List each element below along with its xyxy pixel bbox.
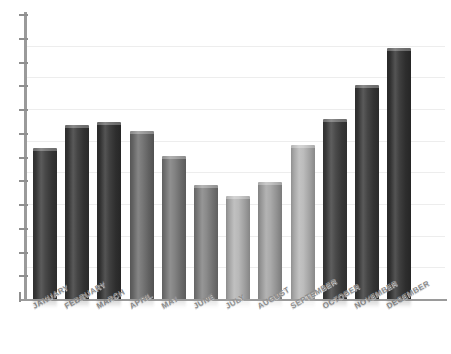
y-axis-tick	[19, 275, 28, 277]
y-axis-tick	[19, 85, 28, 87]
bar-top-highlight	[130, 131, 154, 134]
bar-reflection	[194, 300, 218, 308]
x-axis-origin-tick	[19, 292, 21, 302]
bar-top-highlight	[65, 125, 89, 128]
bar-top-highlight	[97, 122, 121, 125]
bar-top-highlight	[226, 196, 250, 199]
bar-reflection	[97, 300, 121, 308]
bar[interactable]	[65, 125, 89, 299]
gridline	[26, 77, 445, 78]
bar[interactable]	[226, 196, 250, 299]
bar-top-highlight	[387, 48, 411, 51]
bar-top-highlight	[323, 119, 347, 122]
y-axis-tick	[19, 180, 28, 182]
bar-top-highlight	[258, 182, 282, 185]
bar-reflection	[162, 300, 186, 308]
bar[interactable]	[323, 119, 347, 299]
bar[interactable]	[355, 85, 379, 299]
bar-reflection	[387, 300, 411, 308]
y-axis-tick	[19, 38, 28, 40]
bar[interactable]	[291, 145, 315, 299]
bar-reflection	[291, 300, 315, 308]
y-axis-tick	[19, 228, 28, 230]
bar-reflection	[355, 300, 379, 308]
bar-top-highlight	[162, 156, 186, 159]
plot-area	[26, 14, 445, 299]
bar[interactable]	[162, 156, 186, 299]
bar[interactable]	[258, 182, 282, 299]
y-axis-tick	[19, 62, 28, 64]
bar-top-highlight	[355, 85, 379, 88]
y-axis-tick	[19, 252, 28, 254]
bar[interactable]	[130, 131, 154, 299]
bar-reflection	[323, 300, 347, 308]
bar-chart: JANUARYJANUARYFEBRUARYFEBRUARYMARCHMARCH…	[0, 0, 451, 354]
gridline	[26, 46, 445, 47]
bar-reflection	[33, 300, 57, 308]
y-axis-tick	[19, 14, 28, 16]
y-axis-tick	[19, 133, 28, 135]
bar-reflection	[65, 300, 89, 308]
bar-top-highlight	[291, 145, 315, 148]
bar-top-highlight	[194, 185, 218, 188]
bar-reflection	[258, 300, 282, 308]
bar-top-highlight	[33, 148, 57, 151]
bar[interactable]	[33, 148, 57, 299]
bar[interactable]	[194, 185, 218, 299]
y-axis-tick	[19, 157, 28, 159]
y-axis-tick	[19, 204, 28, 206]
y-axis-tick	[19, 109, 28, 111]
bar-reflection	[130, 300, 154, 308]
bar[interactable]	[97, 122, 121, 299]
bar-reflection	[226, 300, 250, 308]
bar[interactable]	[387, 48, 411, 299]
gridline	[26, 109, 445, 110]
